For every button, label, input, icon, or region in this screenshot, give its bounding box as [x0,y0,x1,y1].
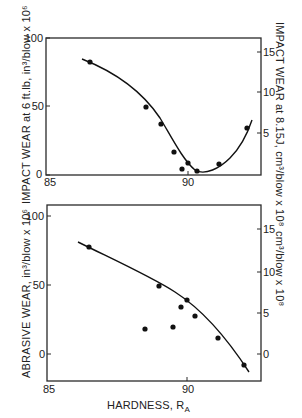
bottom-y-tick-50: 50 [33,279,45,291]
bottom-y-right-tick-0: 0 [263,348,269,360]
top-y-tick-0: 0 [36,168,42,180]
bottom-x-tick-90: 90 [182,383,194,395]
top-y-right-tick-5: 5 [263,127,269,139]
top-x-tick-90: 90 [182,176,194,188]
bottom-y-right-tick-5: 5 [263,307,269,319]
bottom-fit-curve [78,242,249,372]
top-data-points [87,59,249,173]
top-plot-frame [46,38,261,175]
top-chart: 100 50 0 85 90 15 10 5 IMPACT WEAR at 6 … [20,5,286,226]
top-x-tick-85: 85 [44,176,56,188]
top-y-right-tick-10: 10 [263,86,275,98]
top-y-right-label: IMPACT WEAR at 8.15J, cm³/blow x 10⁸ [274,22,286,227]
bottom-plot-frame [47,205,261,381]
bottom-y-right-tick-10: 10 [263,266,275,278]
top-y-left-label: IMPACT WEAR at 6 ft.lb, in³/blow x 10⁶ [20,5,32,204]
bottom-y-right-tick-15: 15 [263,223,275,235]
top-y-tick-50: 50 [32,100,44,112]
top-fit-curve [82,59,252,172]
bottom-y-left-label: ABRASIVE WEAR, in³/blow x 10⁶ [20,209,32,378]
x-axis-label: HARDNESS, RA [107,399,190,414]
bottom-y-tick-0: 0 [39,348,45,360]
bottom-y-right-label: cm³/blow x 10⁸ [274,231,286,306]
bottom-data-points [86,244,246,367]
bottom-chart: 100 50 0 85 90 15 10 5 0 ABRASIVE W [20,205,286,414]
bottom-x-tick-85: 85 [43,383,55,395]
top-y-right-tick-15: 15 [263,46,275,58]
figure: 100 50 0 85 90 15 10 5 IMPACT WEAR at 6 … [0,0,302,418]
